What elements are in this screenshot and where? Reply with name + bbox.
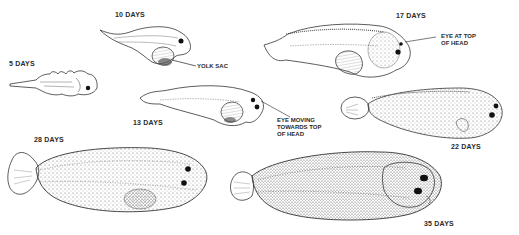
larva-17-days [264, 24, 410, 77]
juvenile-28-days [8, 148, 207, 212]
eye-at-top-leader-line [405, 37, 436, 42]
annotation-yolk-sac: YOLK SAC [197, 63, 228, 70]
juvenile-35-days [231, 152, 442, 220]
larval-development-diagram: 10 DAYS 5 DAYS 17 DAYS 13 DAYS 22 DAYS 2… [0, 0, 519, 235]
stage-label-13-days: 13 DAYS [133, 119, 163, 127]
yolk-sac-leader-line [172, 60, 196, 66]
larva-10-days [100, 27, 191, 66]
stage-label-35-days: 35 DAYS [424, 220, 454, 228]
larva-5-days [10, 71, 97, 96]
larva-22-days [341, 88, 502, 138]
eye-moving-leader-line [261, 101, 290, 117]
stage-label-17-days: 17 DAYS [396, 12, 426, 20]
stage-label-22-days: 22 DAYS [451, 143, 481, 151]
stage-label-28-days: 28 DAYS [34, 136, 64, 144]
annotation-eye-moving: EYE MOVING TOWARDS TOP OF HEAD [277, 117, 321, 138]
annotation-eye-at-top: EYE AT TOP OF HEAD [441, 33, 476, 47]
stage-label-10-days: 10 DAYS [115, 11, 145, 19]
stage-label-5-days: 5 DAYS [9, 60, 35, 68]
